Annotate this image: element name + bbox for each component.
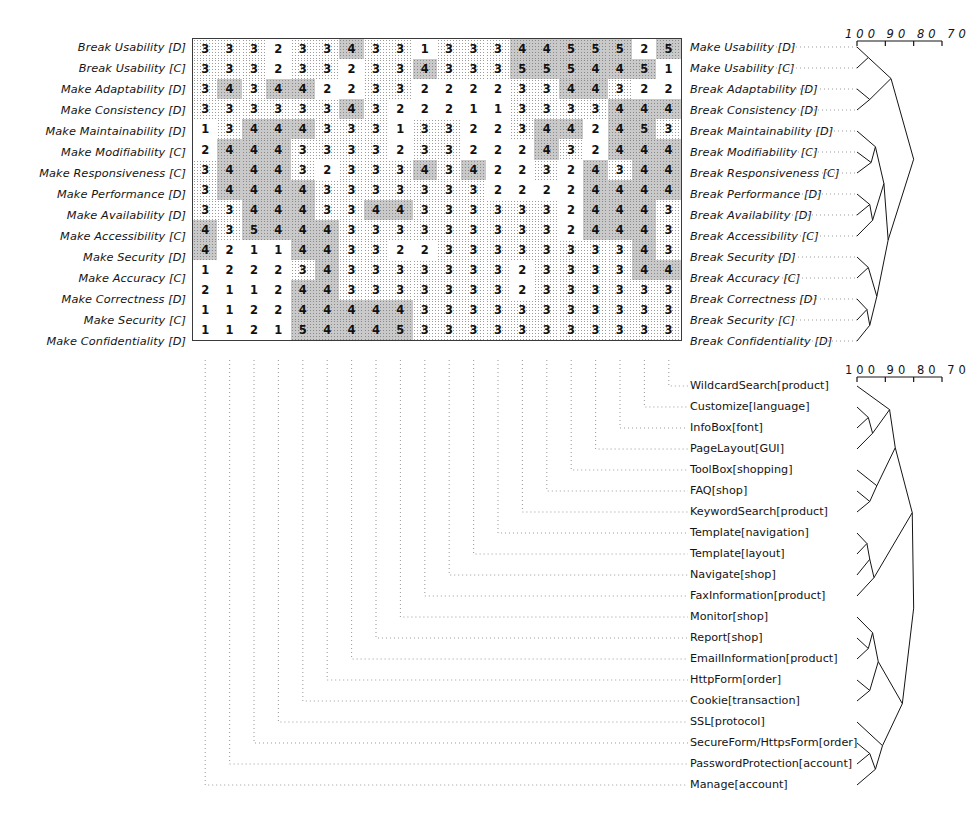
- matrix-cell: 3: [339, 240, 363, 260]
- matrix-cell: 4: [193, 220, 217, 240]
- matrix-cell: 3: [583, 280, 607, 300]
- matrix-cell: 3: [193, 99, 217, 119]
- matrix-cell: 2: [193, 139, 217, 159]
- row-label-right: Break Maintainability [D]: [690, 126, 833, 137]
- matrix-cell: 3: [583, 320, 607, 340]
- matrix-row: 21124433333332333333: [193, 280, 681, 300]
- row-label-left: Make Performance [D]: [57, 189, 186, 200]
- row-label-left: Make Modifiability [C]: [61, 147, 186, 158]
- matrix-cell: 4: [291, 280, 315, 300]
- col-label: Manage[account]: [690, 779, 788, 790]
- matrix-cell: 3: [486, 200, 510, 220]
- matrix-cell: 3: [559, 320, 583, 340]
- row-label-right: Break Modifiability [C]: [690, 147, 818, 158]
- matrix-cell: 3: [461, 180, 485, 200]
- matrix-cell: 3: [461, 300, 485, 320]
- matrix-row: 12223433333332333344: [193, 260, 681, 280]
- matrix-cell: 3: [656, 200, 680, 220]
- matrix-cell: 2: [486, 180, 510, 200]
- matrix-cell: 3: [388, 79, 412, 99]
- matrix-cell: 3: [559, 240, 583, 260]
- figure-canvas: 100 90 80 70 Break Usability [D] Break U…: [0, 0, 970, 819]
- matrix-cell: 4: [291, 200, 315, 220]
- matrix-cell: 2: [486, 160, 510, 180]
- matrix-cell: 4: [315, 260, 339, 280]
- row-label-left: Make Security [C]: [84, 315, 186, 326]
- matrix-cell: 1: [656, 59, 680, 79]
- matrix-col-labels: WildcardSearch[product] Customize[langua…: [690, 375, 865, 785]
- matrix-cell: 1: [413, 39, 437, 59]
- row-label-right: Break Consistency [D]: [690, 105, 818, 116]
- matrix-cell: 3: [608, 320, 632, 340]
- matrix-cell: 3: [315, 139, 339, 159]
- matrix-cell: 3: [413, 220, 437, 240]
- matrix-cell: 3: [583, 99, 607, 119]
- matrix-cell: 3: [461, 280, 485, 300]
- matrix-cell: 4: [632, 99, 656, 119]
- matrix-cell: 3: [388, 220, 412, 240]
- matrix-cell: 4: [315, 280, 339, 300]
- matrix-cell: 2: [510, 280, 534, 300]
- matrix-cell: 4: [242, 180, 266, 200]
- matrix-cell: 3: [413, 300, 437, 320]
- matrix-cell: 2: [461, 79, 485, 99]
- matrix-cell: 3: [315, 39, 339, 59]
- matrix-cell: 3: [291, 59, 315, 79]
- matrix-cell: 3: [461, 260, 485, 280]
- matrix-cell: 3: [388, 280, 412, 300]
- matrix-cell: 4: [217, 180, 241, 200]
- matrix-cell: 4: [339, 320, 363, 340]
- matrix-cell: 2: [388, 99, 412, 119]
- matrix-cell: 5: [632, 59, 656, 79]
- matrix-cell: 3: [437, 39, 461, 59]
- matrix-cell: 3: [193, 79, 217, 99]
- matrix-cell: 3: [559, 300, 583, 320]
- matrix-row-labels-left: Break Usability [D] Break Usability [C] …: [0, 38, 186, 358]
- matrix-row-labels-right: Make Usability [D] Make Usability [C] Br…: [690, 38, 850, 358]
- matrix-cell: 3: [413, 260, 437, 280]
- matrix-cell: 3: [364, 180, 388, 200]
- matrix-cell: 1: [388, 119, 412, 139]
- matrix-cell: 4: [315, 220, 339, 240]
- matrix-cell: 3: [510, 119, 534, 139]
- matrix-cell: 3: [608, 260, 632, 280]
- matrix-cell: 2: [413, 79, 437, 99]
- col-label: Cookie[transaction]: [690, 695, 800, 706]
- row-label-right: Make Usability [D]: [690, 42, 795, 53]
- matrix-cell: 1: [193, 260, 217, 280]
- matrix-cell: 2: [510, 180, 534, 200]
- matrix-row: 42114433223333333343: [193, 240, 681, 260]
- matrix-cell: 3: [364, 240, 388, 260]
- matrix-cell: 4: [461, 160, 485, 180]
- matrix-cell: 4: [608, 59, 632, 79]
- col-label: Template[navigation]: [690, 527, 809, 538]
- matrix-table: 3332334331333445552533323323343335554451…: [193, 39, 681, 340]
- matrix-cell: 3: [534, 240, 558, 260]
- matrix-cell: 3: [534, 160, 558, 180]
- matrix-cell: 3: [388, 160, 412, 180]
- matrix-cell: 3: [413, 180, 437, 200]
- matrix-cell: 3: [656, 320, 680, 340]
- matrix-cell: 3: [217, 39, 241, 59]
- matrix-cell: 3: [315, 200, 339, 220]
- matrix-cell: 3: [583, 240, 607, 260]
- row-label-right: Break Availability [D]: [690, 210, 812, 221]
- row-label-right: Break Security [D]: [690, 252, 796, 263]
- row-label-left: Make Accessibility [C]: [60, 231, 186, 242]
- matrix-row: 33333343222113333444: [193, 99, 681, 119]
- matrix-cell: 4: [291, 240, 315, 260]
- matrix-cell: 4: [266, 220, 290, 240]
- row-label-right: Break Security [C]: [690, 315, 795, 326]
- matrix-cell: 2: [559, 160, 583, 180]
- matrix-row: 33323343313334455525: [193, 39, 681, 59]
- matrix-cell: 4: [291, 300, 315, 320]
- matrix-cell: 3: [437, 320, 461, 340]
- matrix-cell: 2: [437, 79, 461, 99]
- matrix-cell: 3: [461, 220, 485, 240]
- matrix-cell: 1: [217, 300, 241, 320]
- matrix-cell: 3: [461, 240, 485, 260]
- matrix-cell: 3: [291, 39, 315, 59]
- matrix-cell: 3: [315, 59, 339, 79]
- matrix-cell: 1: [193, 119, 217, 139]
- matrix-cell: 2: [193, 280, 217, 300]
